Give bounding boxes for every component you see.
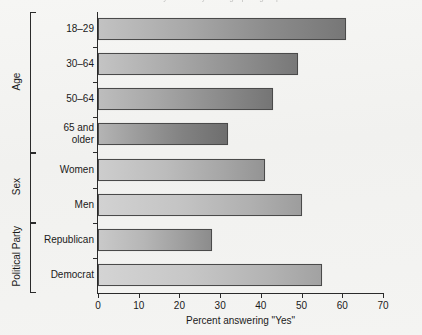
bar-65-and-older[interactable] bbox=[98, 123, 228, 145]
bar-30-64[interactable] bbox=[98, 53, 298, 75]
bar-row-65-and-older bbox=[98, 117, 383, 152]
bar-50-64[interactable] bbox=[98, 88, 273, 110]
x-tick-label-70: 70 bbox=[368, 300, 398, 311]
bar-women[interactable] bbox=[98, 159, 265, 181]
category-label-18-29: 18–29 bbox=[14, 23, 94, 35]
bar-row-democrat bbox=[98, 258, 383, 293]
bar-row-men bbox=[98, 188, 383, 223]
bar-republican[interactable] bbox=[98, 229, 212, 251]
x-tick-label-60: 60 bbox=[327, 300, 357, 311]
x-tick-label-30: 30 bbox=[205, 300, 235, 311]
x-axis-tick bbox=[342, 293, 343, 298]
x-axis-tick bbox=[383, 293, 384, 298]
bar-row-30-64 bbox=[98, 47, 383, 82]
x-tick-label-10: 10 bbox=[124, 300, 154, 311]
x-axis-line bbox=[97, 293, 383, 294]
bar-row-18-29 bbox=[98, 12, 383, 47]
x-axis-tick bbox=[220, 293, 221, 298]
x-axis-tick bbox=[302, 293, 303, 298]
category-label-republican: Republican bbox=[14, 234, 94, 246]
bar-row-republican bbox=[98, 223, 383, 258]
x-tick-label-40: 40 bbox=[246, 300, 276, 311]
bar-men[interactable] bbox=[98, 194, 302, 216]
bar-democrat[interactable] bbox=[98, 264, 322, 286]
bar-18-29[interactable] bbox=[98, 18, 346, 40]
x-axis-tick bbox=[139, 293, 140, 298]
category-label-democrat: Democrat bbox=[14, 269, 94, 281]
chart-page: Survey results by demographic group Age … bbox=[0, 0, 422, 335]
x-axis-title: Percent answering "Yes" bbox=[98, 315, 383, 326]
category-label-women: Women bbox=[14, 164, 94, 176]
category-label-men: Men bbox=[14, 199, 94, 211]
category-label-50-64: 50–64 bbox=[14, 93, 94, 105]
plot-area: 0 10 20 30 40 50 60 70 Percent answering… bbox=[98, 12, 383, 293]
x-tick-label-20: 20 bbox=[164, 300, 194, 311]
cut-off-title: Survey results by demographic group bbox=[0, 0, 422, 2]
x-tick-label-50: 50 bbox=[287, 300, 317, 311]
category-label-65-and-older: 65 and older bbox=[14, 122, 94, 145]
x-axis-tick bbox=[98, 293, 99, 298]
x-axis-tick bbox=[261, 293, 262, 298]
x-tick-label-0: 0 bbox=[83, 300, 113, 311]
bar-row-women bbox=[98, 153, 383, 188]
category-label-30-64: 30–64 bbox=[14, 58, 94, 70]
bar-row-50-64 bbox=[98, 82, 383, 117]
x-axis-tick bbox=[179, 293, 180, 298]
